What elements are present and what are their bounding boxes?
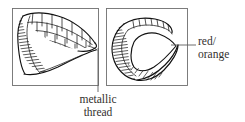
metallic-thread-label-line-1: metallic bbox=[0, 93, 196, 106]
red-orange-label-line-1: red/ bbox=[198, 35, 229, 48]
left-wing-drawing bbox=[14, 12, 97, 75]
metallic-thread-label-line-2: thread bbox=[0, 106, 196, 119]
right-wing-drawing bbox=[108, 18, 178, 80]
metallic-thread-label: metallic thread bbox=[0, 93, 196, 119]
red-orange-label-line-2: orange bbox=[198, 48, 229, 61]
red-orange-label: red/ orange bbox=[198, 35, 229, 61]
figure-root: metallic thread red/ orange bbox=[0, 0, 245, 122]
